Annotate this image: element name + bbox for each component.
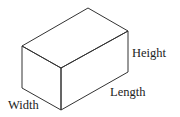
top-face [22, 8, 128, 68]
length-label: Length [110, 86, 145, 99]
height-label: Height [132, 47, 166, 60]
width-label: Width [8, 99, 39, 112]
